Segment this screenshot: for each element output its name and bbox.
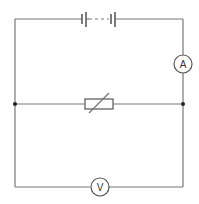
battery-symbol: [82, 12, 117, 27]
junction-right: [181, 102, 185, 106]
ammeter-label: A: [180, 59, 187, 70]
voltmeter-symbol: V: [91, 178, 109, 196]
thermistor-symbol: [85, 93, 113, 113]
circuit-diagram: A V: [0, 0, 199, 204]
voltmeter-label: V: [97, 182, 104, 193]
ammeter-symbol: A: [174, 55, 192, 73]
junction-left: [13, 102, 17, 106]
